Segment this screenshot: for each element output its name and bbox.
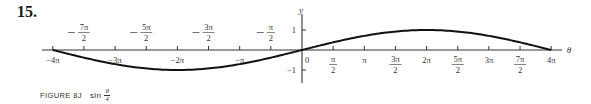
x-tick-label-0: −4π: [46, 55, 60, 65]
fraction-denominator: 4: [105, 96, 109, 103]
figure-function: sin θ 4: [90, 88, 110, 103]
x-tick-label-above-3-num: π: [269, 22, 274, 32]
x-tick-label-above-3-den: 2: [269, 33, 273, 43]
y-axis-label: y: [298, 5, 303, 15]
x-tick-label-11-num: 7π: [516, 54, 525, 64]
x-tick-label-above-0-num: 7π: [80, 22, 89, 32]
x-tick-label-above-1-den: 2: [144, 33, 148, 43]
x-tick-label-above-1-num: 5π: [142, 22, 151, 32]
x-tick-label-5-num: π: [331, 54, 336, 64]
x-tick-label-9-den: 2: [456, 65, 460, 75]
x-tick-label-above-2-den: 2: [206, 33, 210, 43]
x-tick-label-8: 2π: [422, 55, 431, 65]
function-prefix: sin: [90, 91, 101, 100]
x-tick-label-11-den: 2: [518, 65, 522, 75]
x-tick-label-6: π: [362, 55, 367, 65]
figure-label: FIGURE 8J: [40, 91, 82, 100]
x-tick-label-7-den: 2: [393, 65, 397, 75]
x-tick-label-4: 0: [305, 55, 309, 65]
function-fraction: θ 4: [104, 88, 110, 103]
y-tick-label-0: 1: [292, 25, 296, 35]
x-tick-label-7-num: 3π: [391, 54, 400, 64]
x-tick-label-2: −2π: [171, 55, 185, 65]
x-tick-label-9-num: 5π: [453, 54, 462, 64]
x-axis-label: θ: [567, 45, 572, 55]
x-tick-label-5-den: 2: [331, 65, 335, 75]
x-tick-label-10: 3π: [485, 55, 494, 65]
x-tick-label-12: 4π: [547, 55, 556, 65]
x-tick-label-above-2-num: 3π: [204, 22, 213, 32]
y-tick-label-1: −1: [287, 65, 296, 75]
x-tick-label-above-0-den: 2: [82, 33, 86, 43]
figure-caption: FIGURE 8J sin θ 4: [40, 88, 110, 103]
